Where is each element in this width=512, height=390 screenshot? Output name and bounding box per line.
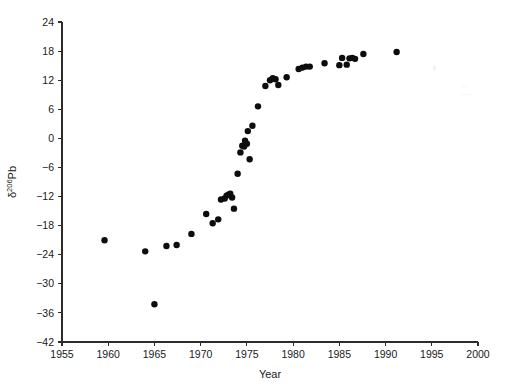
y-tick-label: 12 (42, 74, 54, 86)
data-point (229, 194, 235, 200)
data-point (231, 205, 237, 211)
x-tick-label: 1985 (328, 348, 352, 360)
data-point (101, 237, 107, 243)
y-tick-label: −42 (36, 336, 54, 348)
data-point (245, 128, 251, 134)
x-tick-label: 1965 (143, 348, 167, 360)
x-axis-ticks: 1955196019651970197519801985199019952000 (50, 342, 490, 360)
x-tick-label: 1980 (281, 348, 305, 360)
data-point (203, 211, 209, 217)
data-point (352, 56, 358, 62)
data-point (173, 242, 179, 248)
y-tick-label: 18 (42, 45, 54, 57)
scan-artifact-mark-3: - - - (461, 91, 470, 97)
y-tick-label: 24 (42, 16, 54, 28)
data-point (215, 216, 221, 222)
data-point (307, 63, 313, 69)
data-point (262, 83, 268, 89)
y-axis-title-superscript: 206 (5, 179, 14, 192)
data-point (360, 51, 366, 57)
data-point (393, 49, 399, 55)
y-axis-title-element: Pb (6, 166, 18, 179)
scatter-plot-svg: −42−36−30−24−18−12−606121824 19551960196… (0, 0, 512, 390)
data-point (151, 301, 157, 307)
chart-figure: −42−36−30−24−18−12−606121824 19551960196… (0, 0, 512, 390)
x-tick-label: 2000 (466, 348, 490, 360)
y-tick-label: −6 (42, 161, 54, 173)
data-point (339, 55, 345, 61)
data-point (336, 62, 342, 68)
data-point (344, 61, 350, 67)
data-point (255, 103, 261, 109)
data-point (142, 248, 148, 254)
x-tick-label: 1995 (420, 348, 444, 360)
scan-artifact-mark-2: : : (462, 83, 467, 89)
y-tick-label: −24 (36, 248, 54, 260)
data-point (283, 74, 289, 80)
y-tick-label: −30 (36, 277, 54, 289)
data-point (163, 243, 169, 249)
x-axis-title: Year (259, 368, 282, 380)
y-tick-label: −36 (36, 307, 54, 319)
x-tick-label: 1975 (235, 348, 259, 360)
scatter-points-group (101, 49, 400, 308)
data-point (234, 171, 240, 177)
data-point (272, 76, 278, 82)
y-tick-label: −18 (36, 219, 54, 231)
data-point (275, 82, 281, 88)
data-point (188, 231, 194, 237)
x-tick-label: 1990 (374, 348, 398, 360)
data-point (237, 149, 243, 155)
data-point (244, 141, 250, 147)
x-tick-label: 1960 (97, 348, 121, 360)
y-axis-title: δ206Pb (5, 166, 18, 198)
data-point (249, 123, 255, 129)
data-point (209, 220, 215, 226)
data-point (321, 60, 327, 66)
data-point (246, 156, 252, 162)
scan-artifact-mark-1: |! (433, 65, 437, 71)
y-tick-label: −12 (36, 190, 54, 202)
y-tick-label: 6 (48, 103, 54, 115)
x-tick-label: 1955 (50, 348, 74, 360)
y-tick-label: 0 (48, 132, 54, 144)
x-tick-label: 1970 (189, 348, 213, 360)
y-axis-ticks: −42−36−30−24−18−12−606121824 (36, 16, 62, 348)
